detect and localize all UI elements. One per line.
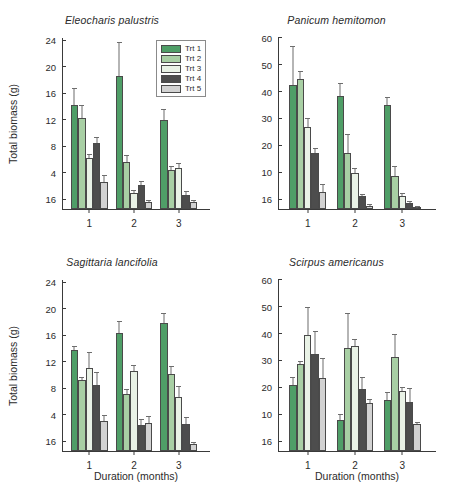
x-tick-mark xyxy=(178,209,179,213)
y-axis-tick: 50 xyxy=(261,301,278,312)
bar-column xyxy=(130,38,137,209)
panel-scirpus-americanus: Scirpus americanus 16102030405060123 Dur… xyxy=(224,242,449,484)
bar-trt-1 xyxy=(337,96,344,209)
y-axis-tick: 8 xyxy=(51,141,62,152)
bar-column xyxy=(391,38,398,209)
bar-trt-4 xyxy=(311,153,318,209)
error-bar xyxy=(178,386,179,397)
bar-column xyxy=(337,38,344,209)
bar-column xyxy=(413,280,420,451)
error-bar xyxy=(387,97,388,105)
error-bar xyxy=(402,193,403,195)
bar-trt-5 xyxy=(145,202,152,209)
bar-trt-2 xyxy=(168,170,175,209)
x-tick-mark xyxy=(134,209,135,213)
bar-trt-5 xyxy=(366,403,373,451)
error-bar xyxy=(104,415,105,422)
bar-column xyxy=(311,38,318,209)
error-bar xyxy=(409,388,410,401)
bar-group: 1 xyxy=(289,280,326,451)
plot-area: 16102030405060123 xyxy=(278,280,430,452)
error-bar xyxy=(347,313,348,348)
bar-trt-2 xyxy=(168,374,175,451)
bar-trt-2 xyxy=(344,348,351,451)
bar-trt-1 xyxy=(160,120,167,209)
error-bar xyxy=(171,366,172,375)
bar-column xyxy=(123,38,130,209)
bar-group: 3 xyxy=(384,280,421,451)
error-bar xyxy=(96,137,97,143)
y-axis-tick: 24 xyxy=(45,35,62,46)
panel-eleocharis-palustris: Eleocharis palustris Total biomass (g) 1… xyxy=(0,0,224,242)
error-bar xyxy=(186,417,187,424)
bar-group: 2 xyxy=(116,38,153,209)
error-bar xyxy=(394,166,395,175)
bar-trt-2 xyxy=(78,380,85,451)
bar-trt-5 xyxy=(145,423,152,451)
error-bar xyxy=(394,334,395,357)
error-bar xyxy=(300,71,301,79)
y-axis-tick: 24 xyxy=(45,277,62,288)
error-bar xyxy=(148,416,149,423)
bar-group: 3 xyxy=(384,38,421,209)
bar-trt-5 xyxy=(190,202,197,209)
plot-area: 16102030405060123 xyxy=(278,38,430,210)
x-axis-line xyxy=(278,451,436,452)
panel-title: Eleocharis palustris xyxy=(0,14,224,26)
bar-column xyxy=(289,280,296,451)
bar-column xyxy=(168,280,175,451)
error-bar xyxy=(340,414,341,421)
error-bar xyxy=(417,422,418,424)
bar-column xyxy=(319,280,326,451)
bar-group: 2 xyxy=(337,280,374,451)
bar-trt-5 xyxy=(190,444,197,451)
bar-column xyxy=(78,280,85,451)
error-bar xyxy=(417,206,418,208)
x-axis-tick: 1 xyxy=(86,218,92,229)
bar-column xyxy=(304,280,311,451)
bar-trt-2 xyxy=(297,79,304,209)
y-axis-tick: 20 xyxy=(45,303,62,314)
error-bar xyxy=(133,190,134,193)
bar-trt-4 xyxy=(182,424,189,451)
y-axis-tick: 10 xyxy=(261,409,278,420)
bar-trt-3 xyxy=(130,371,137,451)
x-tick-mark xyxy=(355,451,356,455)
error-bar xyxy=(126,389,127,394)
legend-item-trt-1: Trt 1 xyxy=(161,44,201,53)
x-axis-label: Duration (months) xyxy=(62,470,210,482)
y-axis-tick: 20 xyxy=(45,61,62,72)
error-bar xyxy=(171,166,172,170)
bar-trt-1 xyxy=(384,105,391,209)
bar-group: 2 xyxy=(337,38,374,209)
y-axis-tick: 30 xyxy=(261,355,278,366)
bar-column xyxy=(413,38,420,209)
error-bar xyxy=(322,358,323,378)
legend-item-trt-5: Trt 5 xyxy=(161,84,201,93)
bar-trt-3 xyxy=(86,158,93,209)
bar-trt-3 xyxy=(399,391,406,451)
bar-group: 2 xyxy=(116,280,153,451)
bar-trt-3 xyxy=(304,335,311,451)
bar-column xyxy=(344,38,351,209)
error-bar xyxy=(340,83,341,96)
bar-column xyxy=(289,38,296,209)
bar-column xyxy=(190,280,197,451)
error-bar xyxy=(186,191,187,195)
bar-trt-2 xyxy=(344,153,351,209)
bar-trt-3 xyxy=(399,196,406,209)
error-bar xyxy=(193,442,194,444)
legend-swatch-icon xyxy=(161,85,181,93)
legend-swatch-icon xyxy=(161,65,181,73)
bar-column xyxy=(384,280,391,451)
error-bar xyxy=(307,307,308,335)
bar-group: 1 xyxy=(71,280,108,451)
x-axis-tick: 2 xyxy=(352,218,358,229)
bar-trt-3 xyxy=(304,127,311,209)
bar-column xyxy=(359,280,366,451)
bar-column xyxy=(138,38,145,209)
error-bar xyxy=(362,377,363,389)
bar-column xyxy=(351,38,358,209)
y-axis-tick: 40 xyxy=(261,86,278,97)
error-bar xyxy=(369,204,370,206)
